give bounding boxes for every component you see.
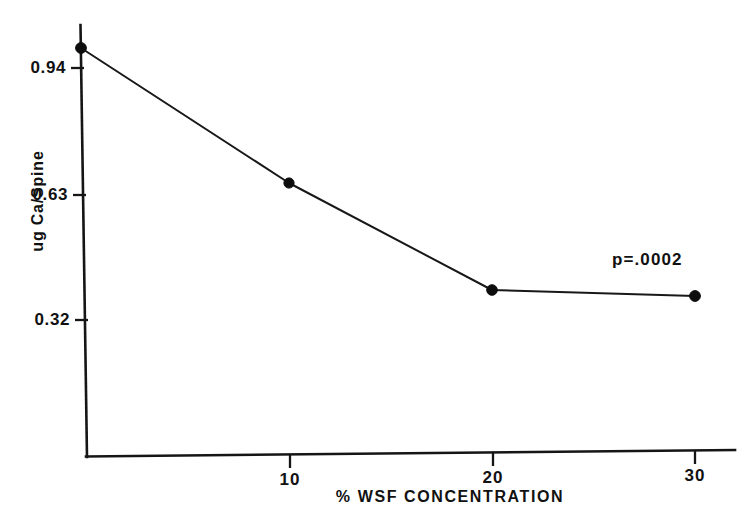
x-tick-label-10: 10 (265, 470, 315, 490)
data-point-10 (284, 178, 294, 188)
p-value-annotation: p=.0002 (612, 250, 683, 270)
y-tick-label-0.32: 0.32 (4, 310, 70, 330)
x-axis-title: % WSF CONCENTRATION (250, 488, 650, 506)
x-tick-label-20: 20 (468, 468, 518, 488)
x-axis-line (86, 450, 735, 457)
x-tick-label-30: 30 (670, 466, 720, 486)
data-series-line (81, 48, 695, 296)
data-point-0 (76, 43, 87, 54)
y-axis-title: ug Ca/Spine (29, 121, 47, 281)
y-axis-line (81, 25, 88, 457)
data-point-20 (487, 285, 498, 296)
figure-canvas: 0.94 0.63 0.32 10 20 30 % WSF CONCENTRAT… (0, 0, 754, 522)
data-point-30 (690, 291, 701, 302)
y-tick-label-0.94: 0.94 (0, 58, 66, 78)
